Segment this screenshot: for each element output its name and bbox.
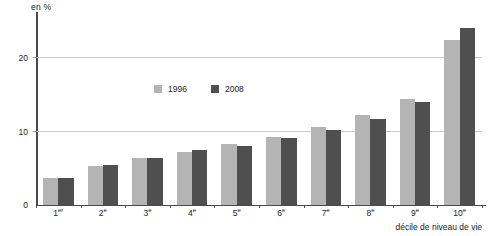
x-tick-label-decile-9: 9e	[411, 207, 419, 217]
x-tick-label-decile-2: 2e	[99, 207, 107, 217]
bar-group	[81, 12, 126, 205]
bar-1996-decile-4	[177, 152, 192, 205]
bar-2008-decile-10	[460, 28, 475, 205]
bar-1996-decile-8	[355, 115, 370, 205]
x-tick-label-decile-5: 5e	[233, 207, 241, 217]
bar-series-layer	[36, 12, 482, 205]
bar-2008-decile-1	[58, 178, 73, 205]
y-tick-label-10: 10	[19, 128, 28, 137]
bar-2008-decile-8	[370, 119, 385, 205]
bar-2008-decile-6	[281, 138, 296, 205]
legend-swatch-1996	[154, 85, 162, 93]
legend-item-1996: 1996	[154, 85, 187, 94]
x-axis-labels: 1er2e3e4e5e6e7e8e9e10e	[36, 207, 482, 221]
legend-swatch-2008	[211, 85, 219, 93]
bar-1996-decile-1	[43, 178, 58, 205]
bar-1996-decile-6	[266, 137, 281, 205]
bar-2008-decile-5	[237, 146, 252, 205]
y-axis-unit-label: en %	[31, 2, 51, 12]
x-tick-label-decile-1: 1er	[53, 207, 63, 217]
bar-group	[214, 12, 259, 205]
bar-group	[393, 12, 438, 205]
bar-group	[259, 12, 304, 205]
chart-container: en % 20 10 0 1996 2008 1er2e3e4e5e6e7e8e…	[0, 0, 490, 236]
bar-group	[304, 12, 349, 205]
bar-2008-decile-9	[415, 102, 430, 205]
plot-area: 1996 2008	[36, 12, 482, 205]
bar-1996-decile-5	[221, 144, 236, 205]
y-tick-label-20: 20	[19, 54, 28, 63]
bar-group	[170, 12, 215, 205]
x-tick-label-decile-6: 6e	[277, 207, 285, 217]
x-tick-label-decile-3: 3e	[143, 207, 151, 217]
y-tick-label-0: 0	[23, 201, 28, 210]
x-tick-label-decile-4: 4e	[188, 207, 196, 217]
bar-group	[437, 12, 482, 205]
bar-1996-decile-7	[311, 127, 326, 205]
bar-group	[348, 12, 393, 205]
x-axis-title: décile de niveau de vie	[396, 222, 482, 232]
bar-1996-decile-2	[88, 166, 103, 205]
bar-1996-decile-10	[444, 40, 459, 205]
x-tick-label-decile-8: 8e	[366, 207, 374, 217]
y-axis-labels: 20 10 0	[0, 12, 32, 207]
bar-2008-decile-4	[192, 150, 207, 205]
bar-2008-decile-7	[326, 130, 341, 205]
bar-2008-decile-2	[103, 165, 118, 205]
x-tick-label-decile-7: 7e	[322, 207, 330, 217]
bar-group	[125, 12, 170, 205]
x-tick-label-decile-10: 10e	[453, 207, 466, 217]
legend-item-2008: 2008	[211, 85, 244, 94]
chart-legend: 1996 2008	[154, 85, 244, 94]
bar-1996-decile-3	[132, 158, 147, 205]
bar-1996-decile-9	[400, 99, 415, 205]
bar-group	[36, 12, 81, 205]
bar-2008-decile-3	[147, 158, 162, 205]
legend-label-1996: 1996	[168, 85, 187, 94]
x-tick-mark	[482, 205, 483, 208]
legend-label-2008: 2008	[225, 85, 244, 94]
